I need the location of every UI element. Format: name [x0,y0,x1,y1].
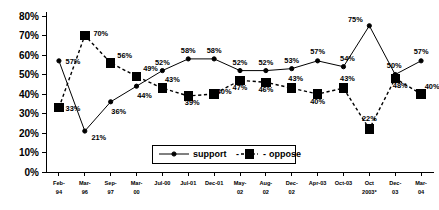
data-label-support: 75% [348,15,363,24]
data-point-support[interactable] [109,100,113,104]
data-point-support[interactable] [134,84,138,88]
y-tick-label: 20% [19,128,39,139]
data-label-oppose: 49% [143,64,158,73]
data-point-support[interactable] [367,24,371,28]
data-label-oppose: 40% [425,82,439,91]
data-point-oppose[interactable] [417,90,425,98]
x-tick-label: Mar-00 [131,180,143,195]
data-point-support[interactable] [57,59,61,63]
x-tick-label: Oct2003* [362,180,377,195]
x-tick-label: Apr-03 [309,180,327,186]
data-point-support[interactable] [316,59,320,63]
x-tick-label: Jul-00 [154,180,170,186]
data-point-support[interactable] [419,59,423,63]
y-tick-label: 40% [19,89,39,100]
x-tick-label: Dec-01 [205,180,223,186]
data-label-support: 58% [181,46,196,55]
x-tick-label: Aug-02 [259,180,272,195]
data-point-support[interactable] [186,57,190,61]
data-point-support[interactable] [238,69,242,73]
data-label-oppose: 43% [340,74,355,83]
chart-container: 80%70%60%50%40%30%20%10%0%Feb-94Mar-96Se… [0,0,439,210]
data-label-oppose: 22% [362,114,377,123]
legend-label-support: support [193,149,227,159]
chart-legend: support--oppose [152,145,301,163]
data-point-support[interactable] [264,69,268,73]
data-label-support: 53% [284,56,299,65]
data-point-oppose[interactable] [158,84,166,92]
data-point-support[interactable] [160,69,164,73]
data-label-support: 57% [66,57,81,66]
data-point-support[interactable] [290,67,294,71]
x-tick-label: Dec-03 [389,180,401,195]
x-tick-label: Feb-94 [53,180,65,195]
data-label-oppose: 47% [233,83,248,92]
data-label-oppose: 56% [117,51,132,60]
data-label-support: 57% [414,47,429,56]
legend-label-oppose: oppose [269,149,301,159]
data-label-support: 54% [340,54,355,63]
data-point-oppose[interactable] [288,84,296,92]
data-point-oppose[interactable] [81,31,89,39]
y-tick-label: 50% [19,69,39,80]
data-label-support: 52% [258,58,273,67]
data-point-support[interactable] [212,57,216,61]
y-tick-label: 80% [19,11,39,22]
y-tick-label: 60% [19,50,39,61]
data-point-oppose[interactable] [132,72,140,80]
data-point-oppose[interactable] [365,125,373,133]
data-label-oppose: 39% [185,98,200,107]
data-label-oppose: 43% [288,74,303,83]
data-label-support: 36% [111,107,126,116]
data-point-support[interactable] [83,129,87,133]
y-tick-label: 30% [19,108,39,119]
x-tick-label: Oct-03 [335,180,352,186]
data-point-oppose[interactable] [106,59,114,67]
legend-marker-circle-icon [172,152,176,156]
y-tick-label: 0% [25,167,40,178]
data-point-oppose[interactable] [55,103,63,111]
data-label-support: 50% [387,61,402,70]
data-label-support: 21% [91,133,106,142]
legend-prefix-dash: - [263,149,266,159]
x-tick-label: Mar-96 [79,180,91,195]
data-label-oppose: 43% [165,75,180,84]
data-label-oppose: 33% [66,104,81,113]
y-tick-label: 10% [19,147,39,158]
data-label-oppose: 40% [217,87,232,96]
data-label-oppose: 70% [93,29,108,38]
y-tick-label: 70% [19,30,39,41]
line-chart: 80%70%60%50%40%30%20%10%0%Feb-94Mar-96Se… [0,0,439,210]
x-tick-label: Dec-02 [286,180,298,195]
x-tick-label: May-02 [234,180,247,195]
data-label-support: 44% [137,91,152,100]
data-label-support: 57% [310,47,325,56]
data-label-oppose: 48% [393,81,408,90]
x-tick-label: Sep-97 [105,180,117,195]
legend-separator: - [236,149,239,159]
data-label-support: 52% [233,58,248,67]
data-point-support[interactable] [341,65,345,69]
data-label-oppose: 40% [310,97,325,106]
data-label-support: 58% [207,46,222,55]
data-point-oppose[interactable] [339,84,347,92]
data-label-oppose: 46% [258,85,273,94]
x-tick-label: Jul-01 [180,180,196,186]
x-tick-label: Mar-04 [415,180,427,195]
